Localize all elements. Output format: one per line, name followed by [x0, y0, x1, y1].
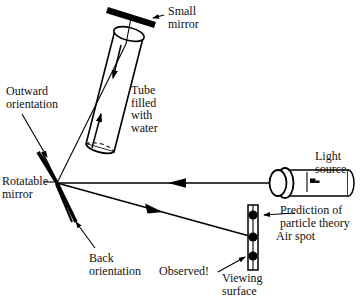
label-prediction-of-particle-theory: Prediction of particle theory — [280, 204, 350, 229]
observed-leader — [218, 257, 245, 272]
label-observed: Observed! — [159, 265, 209, 278]
outward-orientation-leader — [22, 114, 47, 157]
light-source-switch-slot — [316, 181, 320, 184]
air-spot-marker — [248, 232, 257, 241]
diagram-canvas: Small mirror Tube filled with water Outw… — [0, 0, 363, 298]
light-source-lens — [270, 170, 287, 196]
incident-ray-arrowhead — [168, 178, 186, 188]
label-light-source: Light source — [315, 150, 346, 175]
observed-spot — [248, 251, 257, 260]
label-back-orientation: Back orientation — [89, 252, 141, 277]
label-viewing-surface: Viewing surface — [222, 272, 263, 297]
light-source-right-end — [348, 170, 354, 196]
label-small-mirror: Small mirror — [168, 5, 199, 30]
physics-diagram-svg — [0, 0, 363, 298]
rotatable-mirror-back-face — [57, 183, 76, 222]
label-rotatable-mirror: Rotatable mirror — [2, 175, 48, 200]
small-mirror-bar — [107, 10, 155, 25]
rotatable-mirror-back-face-edge — [56, 184, 72, 222]
light-source-switch-button — [310, 179, 316, 184]
incident-ray — [57, 178, 285, 188]
label-air-spot: Air spot — [276, 230, 315, 243]
prediction-spot — [248, 210, 257, 219]
small-mirror-leader — [153, 15, 164, 18]
back-orientation-leader — [76, 222, 95, 248]
reflected-ray — [57, 183, 253, 237]
reflected-ray-arrowhead — [145, 204, 163, 214]
label-outward-orientation: Outward orientation — [6, 85, 58, 110]
label-tube-filled-with-water: Tube filled with water — [131, 84, 158, 134]
viewing-surface — [248, 205, 258, 270]
